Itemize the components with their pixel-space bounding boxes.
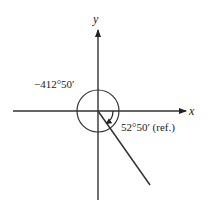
x-axis-label: x [188, 104, 195, 118]
angle-diagram: y x −412°50′ 52°50′ (ref.) [0, 0, 211, 217]
reference-angle-arc [107, 111, 114, 124]
reference-angle-label: 52°50′ (ref.) [121, 121, 175, 134]
y-axis-label: y [92, 12, 99, 26]
angle-label: −412°50′ [34, 78, 75, 90]
